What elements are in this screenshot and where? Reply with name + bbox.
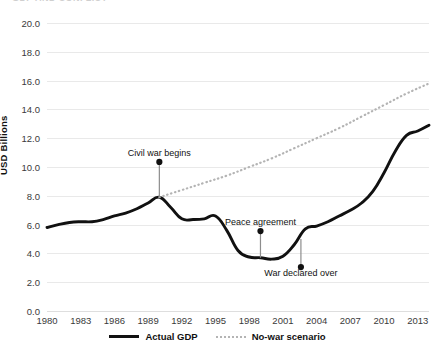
annotation-label-peace-agreement: Peace agreement bbox=[225, 217, 296, 227]
series-lines bbox=[0, 0, 435, 350]
chart-legend: Actual GDPNo-war scenario bbox=[0, 331, 435, 342]
series-line-no-war-scenario bbox=[159, 83, 429, 197]
legend-item-actual-gdp[interactable]: Actual GDP bbox=[109, 331, 197, 342]
legend-label: Actual GDP bbox=[145, 331, 197, 342]
gdp-war-line-chart: GDP AND CONFLICT USD Billions 0.02.04.06… bbox=[0, 0, 435, 350]
legend-label: No-war scenario bbox=[252, 331, 326, 342]
annotation-label-civil-war-begins: Civil war begins bbox=[128, 148, 191, 158]
legend-item-no-war-scenario[interactable]: No-war scenario bbox=[216, 331, 326, 342]
annotation-dot-peace-agreement bbox=[257, 228, 263, 234]
annotation-label-war-declared-over: War declared over bbox=[264, 268, 337, 278]
series-line-actual-gdp bbox=[47, 125, 429, 259]
legend-swatch-solid bbox=[109, 335, 139, 338]
annotation-dot-civil-war-begins bbox=[156, 159, 162, 165]
legend-swatch-dotted bbox=[216, 336, 246, 338]
